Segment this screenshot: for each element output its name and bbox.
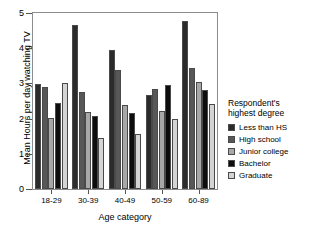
bars-container [33,13,217,189]
bar[interactable] [182,21,188,189]
bar[interactable] [92,116,98,189]
legend-item[interactable]: Graduate [228,169,317,181]
x-axis-tick-label: 18-29 [31,196,71,205]
legend-item[interactable]: High school [228,133,317,145]
y-axis-tick-label: 3 [0,79,24,88]
legend-item-label: Less than HS [239,123,287,132]
x-axis-tick-label: 40-49 [105,196,145,205]
y-axis-tick-label: 2 [0,115,24,124]
legend-item[interactable]: Junior college [228,145,317,157]
bar[interactable] [135,134,141,189]
bar-group [72,13,104,189]
y-axis-tick-label: 0 [0,185,24,194]
legend-title: Respondent's highest degree [228,98,317,118]
legend: Respondent's highest degree Less than HS… [228,98,317,181]
bar[interactable] [72,25,78,189]
bar-group [146,13,178,189]
legend-item[interactable]: Bachelor [228,157,317,169]
x-axis-tick-label: 60-89 [179,196,219,205]
bar[interactable] [189,68,195,189]
bar[interactable] [129,113,135,189]
bar[interactable] [115,70,121,189]
y-axis-title: Mean Hours per day watching TV [22,8,32,188]
bar[interactable] [172,119,178,189]
legend-item-label: Graduate [239,171,272,180]
bar[interactable] [122,105,128,189]
x-axis-title: Age category [32,212,218,222]
legend-item[interactable]: Less than HS [228,121,317,133]
bar[interactable] [98,138,104,189]
bar[interactable] [79,92,85,190]
y-axis-tick-label: 4 [0,44,24,53]
bar[interactable] [159,111,165,189]
bar-group [182,13,214,189]
legend-item-label: Bachelor [239,159,271,168]
bar[interactable] [62,83,68,189]
x-axis-tick [88,190,89,194]
x-axis-tick [51,190,52,194]
legend-swatch-icon [228,124,235,131]
chart-screenshot: …… Mean Hours per day watching TV 012345… [0,0,317,235]
legend-items: Less than HSHigh schoolJunior collegeBac… [228,121,317,181]
legend-swatch-icon [228,172,235,179]
bar[interactable] [152,89,158,189]
bar[interactable] [35,84,41,189]
legend-swatch-icon [228,136,235,143]
y-axis-tick-label: 1 [0,150,24,159]
bar[interactable] [48,118,54,189]
bar[interactable] [146,95,152,189]
bar-group [35,13,67,189]
bar[interactable] [55,103,61,189]
legend-item-label: High school [239,135,281,144]
x-axis-tick [199,190,200,194]
legend-swatch-icon [228,148,235,155]
x-axis-tick [125,190,126,194]
bar[interactable] [196,82,202,189]
bar[interactable] [85,112,91,189]
bar[interactable] [109,50,115,189]
legend-title-line-1: Respondent's [228,98,317,108]
x-axis-tick-label: 30-39 [68,196,108,205]
x-axis-tick [162,190,163,194]
y-axis-tick-label: 5 [0,9,24,18]
bar[interactable] [165,85,171,189]
bar[interactable] [209,104,215,189]
legend-item-label: Junior college [239,147,288,156]
legend-swatch-icon [228,160,235,167]
bar[interactable] [42,87,48,189]
cropped-title-sliver: …… [60,0,160,4]
bar[interactable] [202,90,208,189]
bar-group [109,13,141,189]
x-axis-tick-label: 50-59 [142,196,182,205]
legend-title-line-2: highest degree [228,108,317,118]
